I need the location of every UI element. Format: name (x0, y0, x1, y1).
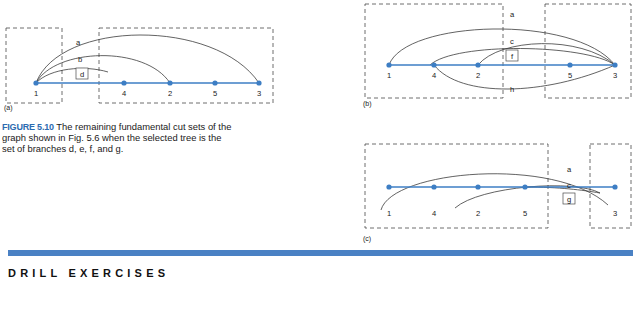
graph-node (612, 184, 617, 189)
graph-node (522, 184, 527, 189)
arc-h (434, 65, 615, 89)
figure-panel-c: 1 4 2 5 3 a c g (c) (340, 135, 641, 245)
panel-sublabel-c: (c) (363, 235, 371, 242)
arc-label-c: c (510, 37, 514, 46)
arc-label-a: a (567, 165, 572, 174)
arc-label-b: b (78, 55, 82, 64)
node-label: 4 (432, 71, 436, 80)
node-label: 3 (613, 209, 617, 218)
figure-panel-a: 1 4 2 5 3 a b d (a) (0, 0, 300, 115)
arc-f (430, 48, 615, 65)
graph-node (386, 184, 391, 189)
node-label: 1 (34, 89, 38, 98)
node-label: 1 (387, 71, 391, 80)
node-label: 1 (387, 209, 391, 218)
node-label: 4 (432, 209, 436, 218)
graph-node (612, 62, 617, 67)
arc-label-a: a (510, 10, 515, 19)
graph-node (475, 184, 480, 189)
section-title-drill-exercises: DRILL EXERCISES (8, 267, 169, 279)
graph-node (431, 62, 436, 67)
graph-node (256, 80, 261, 85)
node-label: 3 (613, 71, 617, 80)
figure-caption: FIGURE 5.10 The remaining fundamental cu… (2, 122, 236, 154)
arc-a (389, 29, 615, 65)
figure-number-label: FIGURE 5.10 (2, 122, 54, 132)
graph-node (386, 62, 391, 67)
graph-node (475, 62, 480, 67)
graph-node (33, 80, 38, 85)
panel-sublabel-a: (a) (4, 104, 13, 111)
section-divider-rule (8, 250, 633, 256)
cutset-box-b-left (365, 4, 503, 98)
node-label: 5 (213, 89, 217, 98)
graph-node (212, 80, 217, 85)
arc-label-d: d (80, 70, 84, 79)
arc-label-g: g (567, 195, 571, 204)
node-label: 2 (168, 89, 172, 98)
node-label: 5 (523, 209, 527, 218)
textbook-page: 1 4 2 5 3 a b d (a) 1 (0, 0, 641, 311)
cutset-box-c-left (365, 144, 548, 228)
arc-a (36, 35, 259, 83)
node-label: 2 (476, 71, 480, 80)
graph-node (431, 184, 436, 189)
node-label: 4 (122, 89, 126, 98)
figure-panel-b: 1 4 2 5 3 a c f h (b) (340, 0, 641, 115)
cutset-box-c-right (590, 144, 631, 228)
node-label: 2 (476, 209, 480, 218)
arc-label-a: a (76, 38, 81, 47)
graph-node (167, 80, 172, 85)
arc-b (36, 56, 170, 83)
graph-node (121, 80, 126, 85)
panel-sublabel-b: (b) (363, 100, 372, 107)
arc-c (478, 44, 615, 65)
graph-node (567, 62, 572, 67)
node-label: 5 (568, 71, 572, 80)
arc-label-h: h (510, 85, 514, 94)
node-label: 3 (257, 89, 261, 98)
arc-label-c: c (567, 181, 571, 190)
